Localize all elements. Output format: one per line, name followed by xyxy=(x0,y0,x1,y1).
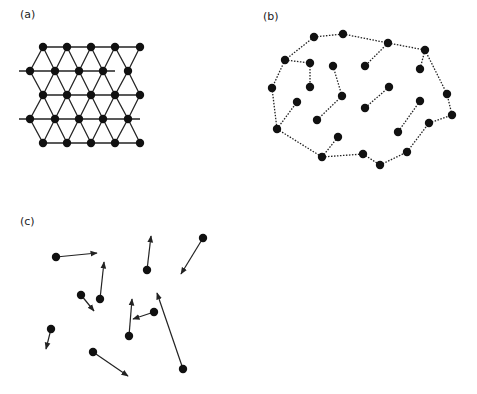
lattice-node xyxy=(26,115,34,123)
particle-node xyxy=(77,291,85,299)
velocity-arrow xyxy=(56,253,97,257)
cluster-node xyxy=(403,148,411,156)
cluster-node xyxy=(361,62,369,70)
cluster-node xyxy=(313,116,321,124)
cluster-node xyxy=(306,59,314,67)
lattice-node xyxy=(111,139,119,147)
cluster-node xyxy=(293,98,301,106)
lattice-node xyxy=(99,67,107,75)
lattice-node xyxy=(136,43,144,51)
lattice-node xyxy=(39,43,47,51)
lattice-node xyxy=(51,67,59,75)
lattice-node xyxy=(63,91,71,99)
cluster-node xyxy=(416,97,424,105)
lattice-node xyxy=(87,43,95,51)
lattice-node xyxy=(26,67,34,75)
velocity-arrow xyxy=(157,293,183,369)
lattice-node xyxy=(124,115,132,123)
particle-node xyxy=(150,308,158,316)
lattice-node xyxy=(136,91,144,99)
lattice-node xyxy=(51,115,59,123)
diagram-canvas xyxy=(0,0,477,394)
lattice-node xyxy=(75,115,83,123)
lattice-node xyxy=(63,139,71,147)
lattice-node xyxy=(39,91,47,99)
cluster-node xyxy=(273,125,281,133)
particle-node xyxy=(179,365,187,373)
cluster-node xyxy=(361,104,369,112)
cluster-node xyxy=(443,90,451,98)
lattice-node xyxy=(63,43,71,51)
chain-clusters xyxy=(268,30,456,169)
velocity-arrow xyxy=(93,352,128,376)
particle-node xyxy=(47,325,55,333)
lattice-node xyxy=(87,139,95,147)
lattice-node xyxy=(99,115,107,123)
particle-node xyxy=(52,253,60,261)
lattice-node xyxy=(39,139,47,147)
velocity-arrow xyxy=(181,238,203,274)
cluster-node xyxy=(425,119,433,127)
cluster-node xyxy=(310,33,318,41)
cluster-node xyxy=(421,46,429,54)
lattice-node xyxy=(75,67,83,75)
cluster-node xyxy=(394,128,402,136)
velocity-arrow xyxy=(147,236,151,270)
cluster-node xyxy=(338,92,346,100)
particle-node xyxy=(125,332,133,340)
cluster-node xyxy=(376,161,384,169)
cluster-node xyxy=(448,111,456,119)
cluster-node xyxy=(318,153,326,161)
particle-node xyxy=(143,266,151,274)
lattice-node xyxy=(111,43,119,51)
velocity-arrow xyxy=(129,299,132,336)
cluster-node xyxy=(334,133,342,141)
cluster-node xyxy=(281,56,289,64)
lattice-node xyxy=(136,139,144,147)
triangular-lattice xyxy=(19,43,144,147)
velocity-arrows xyxy=(46,234,207,376)
lattice-node xyxy=(124,67,132,75)
lattice-node xyxy=(87,91,95,99)
particle-node xyxy=(199,234,207,242)
particle-node xyxy=(96,295,104,303)
cluster-node xyxy=(339,30,347,38)
velocity-arrow xyxy=(100,262,104,299)
particle-node xyxy=(89,348,97,356)
lattice-node xyxy=(111,91,119,99)
cluster-node xyxy=(329,62,337,70)
cluster-node xyxy=(359,150,367,158)
cluster-node xyxy=(306,83,314,91)
cluster-node xyxy=(268,84,276,92)
cluster-node xyxy=(384,39,392,47)
cluster-node xyxy=(416,65,424,73)
cluster-node xyxy=(385,83,393,91)
